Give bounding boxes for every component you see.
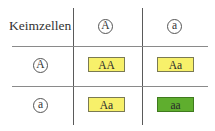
grid-horizontal-line-1 [12, 46, 208, 47]
row-gamete-label: a [38, 99, 43, 111]
column-gamete-circle-a: a [167, 19, 182, 34]
genotype-label: Aa [100, 99, 113, 111]
grid-horizontal-line-2 [12, 86, 208, 87]
row-gamete-label: A [36, 59, 44, 71]
genotype-cell-Aa-2: Aa [88, 97, 125, 112]
genotype-label: AA [98, 59, 115, 71]
row-gamete-circle-a: a [33, 98, 48, 113]
genotype-cell-aa: aa [157, 97, 194, 112]
corner-label: Keimzellen [9, 18, 71, 34]
genotype-cell-AA: AA [88, 57, 125, 72]
row-gamete-circle-A: A [33, 58, 48, 73]
column-gamete-circle-A: A [98, 19, 113, 34]
genotype-label: aa [170, 99, 180, 111]
grid-vertical-line-1 [73, 8, 74, 125]
column-gamete-label: a [172, 20, 177, 32]
genotype-cell-Aa-1: Aa [157, 57, 194, 72]
genotype-label: Aa [169, 59, 182, 71]
column-gamete-label: A [101, 20, 109, 32]
grid-vertical-line-2 [142, 8, 143, 125]
